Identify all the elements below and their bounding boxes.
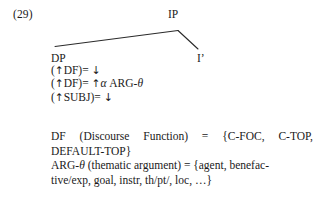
annotation-equals: )= xyxy=(91,91,104,103)
definition-df-line-1: DF (Discourse Function) = {C-FOC, C-TOP, xyxy=(51,129,313,144)
arg-prefix: ARG- xyxy=(51,159,79,171)
definition-arg-theta-line-1: ARG-θ (thematic argument) = {agent, bene… xyxy=(51,158,319,173)
annotation-line-df-down: (↑DF)= ↓ xyxy=(51,64,143,77)
syntax-tree-figure: (29) IP DP I’ (↑DF)= ↓ (↑DF)= ↑α ARG-θ (… xyxy=(0,0,325,202)
arg-line-1-rest: (thematic argument) = {agent, benefac- xyxy=(85,159,269,171)
definitions-block: DF (Discourse Function) = {C-FOC, C-TOP,… xyxy=(51,129,319,187)
definition-arg-theta: ARG-θ (thematic argument) = {agent, bene… xyxy=(51,158,319,187)
up-arrow-icon: ↑ xyxy=(55,91,64,103)
annotation-equals: )= xyxy=(78,64,91,76)
example-number: (29) xyxy=(13,8,33,21)
tree-node-ip: IP xyxy=(168,8,178,21)
down-arrow-icon: ↓ xyxy=(92,64,101,77)
annotation-line-df-arg-theta: (↑DF)= ↑α ARG-θ xyxy=(51,77,143,90)
annotation-feature-df: DF xyxy=(64,64,79,76)
definition-arg-theta-line-2: tive/exp, goal, instr, th/pt/, loc, …} xyxy=(51,173,319,188)
up-arrow-icon: ↑ xyxy=(55,64,64,76)
definition-df-line-2: DEFAULT-TOP} xyxy=(51,144,319,159)
up-arrow-icon: ↑ xyxy=(55,77,64,89)
annotation-line-subj-down: (↑SUBJ)= ↓ xyxy=(51,91,143,104)
theta-symbol: θ xyxy=(137,77,143,89)
tree-node-i-bar: I’ xyxy=(197,52,205,65)
annotation-arg-label: ARG- xyxy=(106,77,137,89)
annotation-feature-subj: SUBJ xyxy=(64,91,91,103)
functional-annotations: (↑DF)= ↓ (↑DF)= ↑α ARG-θ (↑SUBJ)= ↓ xyxy=(51,64,143,104)
annotation-equals: )= xyxy=(78,77,91,89)
down-arrow-icon: ↓ xyxy=(104,91,113,104)
annotation-feature-df: DF xyxy=(64,77,79,89)
tree-branch-left xyxy=(55,31,178,47)
definition-df: DF (Discourse Function) = {C-FOC, C-TOP,… xyxy=(51,129,319,158)
tree-branch-right xyxy=(178,31,198,50)
